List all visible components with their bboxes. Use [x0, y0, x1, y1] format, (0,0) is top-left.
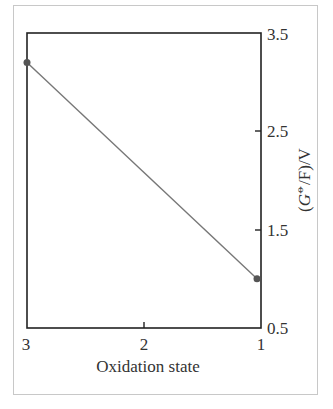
- y-axis-title-rest: /F)/V: [295, 147, 314, 185]
- data-point: [254, 275, 261, 282]
- plot-area: [27, 33, 261, 328]
- y-axis-title-symbol: G: [295, 194, 314, 206]
- y-axis-title-superscript: ⦵: [293, 185, 305, 194]
- y-tick-label: 0.5: [267, 319, 288, 338]
- y-tick-label: 3.5: [267, 25, 288, 44]
- y-tick-label: 2.5: [267, 122, 288, 141]
- x-tick-label: 1: [257, 335, 266, 354]
- x-tick-label: 3: [22, 335, 31, 354]
- data-line: [27, 63, 257, 279]
- x-axis-title: Oxidation state: [96, 357, 199, 376]
- y-tick-label: 1.5: [267, 221, 288, 240]
- data-point: [24, 59, 31, 66]
- x-tick-label: 2: [140, 335, 149, 354]
- y-axis-title: (G⦵/F)/V: [293, 147, 314, 212]
- chart: 3.5 2.5 1.5 0.5 3 2 1 Oxidation state (G…: [0, 0, 333, 409]
